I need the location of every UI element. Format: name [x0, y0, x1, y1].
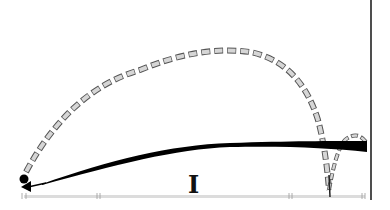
dashed-trajectory — [26, 50, 329, 190]
marker-I-label: I — [188, 173, 199, 197]
dashed-trajectory-fill — [26, 50, 329, 190]
solid-trajectory — [42, 141, 367, 185]
launch-point — [20, 175, 29, 184]
trajectory-diagram: I — [0, 0, 390, 210]
landing-line — [329, 175, 330, 197]
